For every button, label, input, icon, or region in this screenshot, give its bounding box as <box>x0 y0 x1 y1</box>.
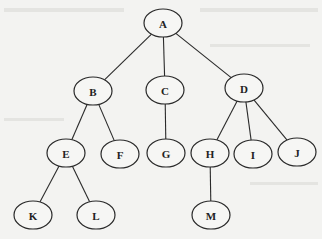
node-a: A <box>144 9 182 37</box>
edge-b-f <box>99 104 115 140</box>
node-label: H <box>206 148 215 160</box>
node-g: G <box>147 139 185 167</box>
node-label: C <box>161 85 169 97</box>
node-b: B <box>74 77 112 105</box>
edge-d-h <box>217 101 237 140</box>
node-i: I <box>234 140 272 168</box>
node-label: L <box>92 210 99 222</box>
node-label: D <box>240 83 248 95</box>
tree-diagram: ABCDEFGHIJKLM <box>0 0 322 239</box>
tree-edges <box>40 33 287 202</box>
node-j: J <box>278 138 316 166</box>
edge-e-l <box>72 166 89 202</box>
node-c: C <box>146 76 184 104</box>
node-label: A <box>159 18 167 30</box>
node-label: B <box>89 86 97 98</box>
node-label: F <box>117 149 124 161</box>
node-d: D <box>225 74 263 102</box>
node-f: F <box>101 140 139 168</box>
edge-d-i <box>246 102 251 140</box>
node-label: K <box>29 210 38 222</box>
tree-diagram-canvas: ABCDEFGHIJKLM <box>0 0 322 239</box>
edge-e-k <box>40 166 59 202</box>
node-e: E <box>47 139 85 167</box>
edge-a-b <box>104 34 151 80</box>
edge-h-m <box>210 167 211 201</box>
node-h: H <box>191 139 229 167</box>
edge-d-j <box>254 100 287 140</box>
node-m: M <box>192 201 230 229</box>
node-label: I <box>251 149 255 161</box>
node-label: J <box>294 147 300 159</box>
edge-a-d <box>176 33 231 77</box>
node-label: E <box>62 148 69 160</box>
node-label: M <box>206 210 217 222</box>
node-l: L <box>77 201 115 229</box>
node-label: G <box>162 148 171 160</box>
edge-b-e <box>72 104 87 139</box>
edge-c-g <box>165 104 166 139</box>
node-k: K <box>14 201 52 229</box>
edge-a-c <box>163 37 164 76</box>
